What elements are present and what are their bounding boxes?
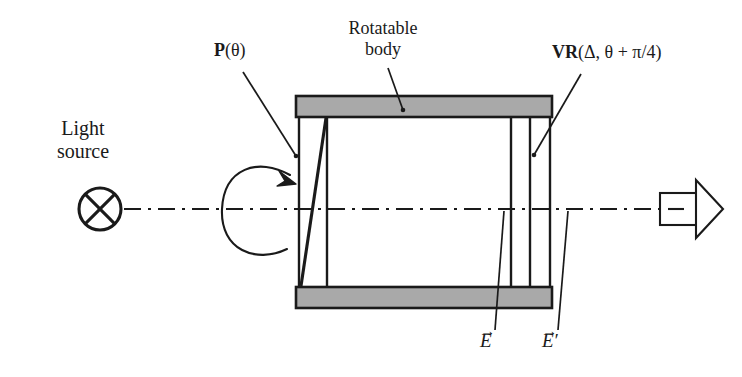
retarder-label: VR(Δ, θ + π/4)	[552, 42, 661, 63]
polarizer-label-symbol: P	[214, 40, 225, 60]
field-in-vector-symbol: →E	[480, 330, 492, 352]
retarder-label-argument: (Δ, θ + π/4)	[578, 42, 661, 62]
rotation-indicator	[222, 167, 296, 255]
optical-diagram-figure: Light source P(θ) Rotatable body VR(Δ, θ…	[0, 0, 742, 377]
leader-line-polarizer	[243, 72, 296, 156]
light-source-label: Light source	[28, 117, 138, 163]
light-source-label-line1: Light	[28, 117, 138, 140]
light-source-label-line2: source	[28, 140, 138, 163]
leader-dot-rotatable	[401, 108, 406, 113]
field-out-letter: E	[542, 330, 554, 351]
polarizer-element	[301, 117, 327, 287]
variable-retarder-element	[511, 117, 530, 287]
field-in-label: →E	[480, 330, 492, 352]
polarizer-slant-line	[301, 118, 326, 286]
rotatable-body-label: Rotatable body	[320, 18, 446, 59]
leader-dot-retarder	[532, 153, 537, 158]
leader-line-field-out	[558, 211, 568, 330]
rotatable-body-label-line2: body	[320, 39, 446, 60]
leader-dot-polarizer	[294, 154, 299, 159]
detector-symbol	[660, 180, 723, 238]
field-in-letter: E	[480, 330, 492, 351]
field-out-prime-mark: ′	[554, 330, 558, 351]
rotatable-body-group	[296, 96, 552, 308]
polarizer-label-argument: (θ)	[225, 40, 246, 60]
body-top-bar	[296, 96, 552, 117]
leader-line-field-in	[495, 211, 504, 330]
rotatable-body-label-line1: Rotatable	[320, 18, 446, 39]
light-source-symbol	[79, 188, 121, 230]
retarder-label-symbol: VR	[552, 42, 578, 62]
body-bottom-bar	[296, 287, 552, 308]
field-out-label: →E′	[542, 330, 558, 352]
field-out-vector-symbol: →E	[542, 330, 554, 352]
rotation-curve-icon	[222, 167, 290, 255]
detector-arrowhead-icon	[696, 180, 723, 238]
polarizer-label: P(θ)	[214, 40, 246, 61]
